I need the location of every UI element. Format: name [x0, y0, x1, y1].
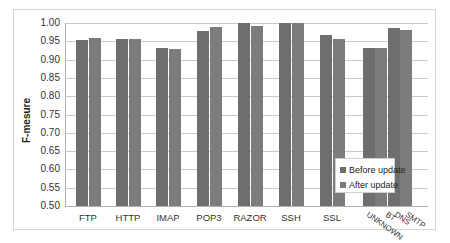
- x-tick-label: IMAP: [148, 212, 188, 223]
- legend-item-after: After update: [340, 180, 398, 190]
- x-tick-label: SSL: [312, 212, 352, 223]
- y-tick-label: 1.00: [20, 17, 60, 28]
- bar-http-after: [129, 39, 141, 206]
- x-axis-line: [65, 206, 428, 207]
- bar-ftp-after: [89, 38, 101, 206]
- y-axis-title: F-mesure: [21, 91, 32, 151]
- bar-http-before: [116, 39, 128, 206]
- legend-label-after: After update: [349, 180, 398, 190]
- y-tick-label: 0.60: [20, 163, 60, 174]
- bar-ftp-before: [76, 40, 88, 206]
- bar-imap-after: [169, 49, 181, 206]
- bar-bt-dns-smtp-after: [400, 30, 412, 206]
- x-tick-label: HTTP: [108, 212, 148, 223]
- bar-ssh-before: [279, 23, 291, 206]
- legend-swatch-before: [340, 167, 346, 173]
- y-tick-label: 0.55: [20, 182, 60, 193]
- y-tick-label: 0.85: [20, 72, 60, 83]
- bar-ssl-before: [320, 35, 332, 206]
- y-axis-line: [65, 23, 66, 207]
- y-tick-label: 0.50: [20, 200, 60, 211]
- x-tick-label: POP3: [189, 212, 229, 223]
- bar-razor-after: [251, 26, 263, 206]
- legend-swatch-after: [340, 182, 346, 188]
- bar-razor-before: [238, 23, 250, 206]
- bar-pop3-after: [210, 27, 222, 206]
- x-tick-label: SSH: [271, 212, 311, 223]
- x-tick-label: FTP: [68, 212, 108, 223]
- legend: Before update After update: [335, 158, 395, 193]
- legend-label-before: Before update: [349, 165, 406, 175]
- bar-ssh-after: [292, 23, 304, 206]
- bar-pop3-before: [197, 31, 209, 206]
- y-tick-label: 0.95: [20, 35, 60, 46]
- y-tick-label: 0.90: [20, 54, 60, 65]
- bar-imap-before: [156, 48, 168, 206]
- x-tick-label: RAZOR: [230, 212, 270, 223]
- legend-item-before: Before update: [340, 165, 406, 175]
